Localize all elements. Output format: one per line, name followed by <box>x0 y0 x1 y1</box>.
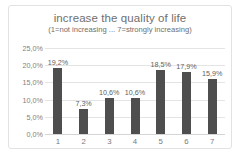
bar[interactable] <box>105 98 114 134</box>
chart-title-block: increase the quality of life (1=not incr… <box>9 12 231 35</box>
bar-data-label: 7,3% <box>75 99 91 108</box>
bar-slot: 7,3% <box>71 48 97 134</box>
bar-slot: 17,9% <box>174 48 200 134</box>
bar[interactable] <box>208 79 217 134</box>
x-axis-tick-label: 5 <box>148 137 174 146</box>
bar[interactable] <box>131 98 140 134</box>
bar[interactable] <box>53 68 62 134</box>
x-axis-tick-label: 7 <box>199 137 225 146</box>
y-axis-tick-label: 0,0% <box>27 130 43 139</box>
y-axis-tick-label: 5,0% <box>27 112 43 121</box>
y-axis-tick-label: 10,0% <box>23 95 43 104</box>
chart-title: increase the quality of life <box>9 12 231 25</box>
y-axis-tick-label: 20,0% <box>23 61 43 70</box>
bar-data-label: 18,5% <box>151 60 171 69</box>
bar-slot: 19,2% <box>45 48 71 134</box>
x-axis-tick-label: 1 <box>45 137 71 146</box>
bar-slot: 15,9% <box>199 48 225 134</box>
bar-data-label: 15,9% <box>202 69 222 78</box>
bar-data-label: 19,2% <box>48 58 68 67</box>
bar-data-label: 10,6% <box>125 88 145 97</box>
bar-data-label: 17,9% <box>176 62 196 71</box>
bar[interactable] <box>79 109 88 134</box>
axis-baseline <box>45 134 225 135</box>
x-axis-tick-label: 2 <box>71 137 97 146</box>
bar-slot: 18,5% <box>148 48 174 134</box>
bar[interactable] <box>182 72 191 134</box>
chart-subtitle: (1=not increasing ... 7=strongly increas… <box>9 25 231 35</box>
x-axis-tick-label: 6 <box>174 137 200 146</box>
bar-slot: 10,6% <box>96 48 122 134</box>
x-axis-tick-label: 4 <box>122 137 148 146</box>
chart-frame: increase the quality of life (1=not incr… <box>8 5 232 149</box>
bar[interactable] <box>156 70 165 134</box>
x-axis: 1234567 <box>45 137 225 146</box>
y-axis: 25,0%20,0%15,0%10,0%5,0%0,0% <box>17 48 43 134</box>
bar-data-label: 10,6% <box>99 88 119 97</box>
bar-slot: 10,6% <box>122 48 148 134</box>
x-axis-tick-label: 3 <box>96 137 122 146</box>
y-axis-tick-label: 15,0% <box>23 78 43 87</box>
y-axis-tick-label: 25,0% <box>23 44 43 53</box>
bar-series: 19,2%7,3%10,6%10,6%18,5%17,9%15,9% <box>45 48 225 134</box>
